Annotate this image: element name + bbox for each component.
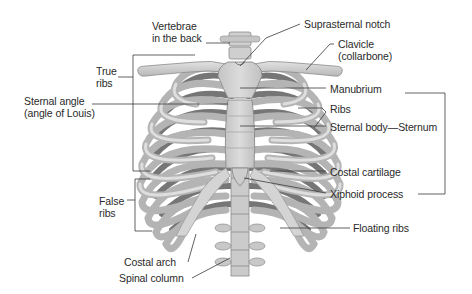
- label-line-2: ribs: [96, 77, 117, 89]
- label-spinal-column: Spinal column: [119, 272, 184, 284]
- label-line-1: True: [96, 65, 117, 77]
- label-xiphoid-process: Xiphoid process: [330, 188, 403, 200]
- rib-cage-illustration: [0, 0, 472, 294]
- label-sternal-angle: Sternal angle (angle of Louis): [24, 95, 95, 119]
- label-true-ribs: True ribs: [96, 65, 117, 89]
- label-line-2: ribs: [99, 207, 124, 219]
- label-floating-ribs: Floating ribs: [353, 222, 409, 234]
- label-line-1: Vertebrae: [152, 20, 202, 32]
- label-vertebrae-back: Vertebrae in the back: [152, 20, 202, 44]
- label-line-1: False: [99, 195, 124, 207]
- label-line-1: Clavicle: [338, 38, 392, 50]
- label-ribs: Ribs: [330, 103, 351, 115]
- label-clavicle: Clavicle (collarbone): [338, 38, 392, 62]
- rib-cage-diagram: Vertebrae in the back Suprasternal notch…: [0, 0, 472, 294]
- label-costal-cartilage: Costal cartilage: [330, 166, 401, 178]
- label-line-2: in the back: [152, 32, 202, 44]
- label-manubrium: Manubrium: [330, 83, 382, 95]
- label-suprasternal-notch: Suprasternal notch: [304, 18, 390, 30]
- label-false-ribs: False ribs: [99, 195, 124, 219]
- label-costal-arch: Costal arch: [124, 256, 176, 268]
- label-sternal-body: Sternal body—Sternum: [330, 121, 437, 133]
- label-line-1: Sternal angle: [24, 95, 95, 107]
- label-line-2: (collarbone): [338, 50, 392, 62]
- label-line-2: (angle of Louis): [24, 107, 95, 119]
